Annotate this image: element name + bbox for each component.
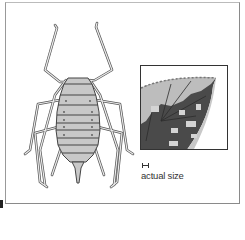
scale-caption: actual size — [141, 170, 184, 181]
leaf-inset — [140, 65, 228, 150]
scale-bar-icon — [142, 163, 149, 168]
leaf-icon — [141, 66, 228, 150]
